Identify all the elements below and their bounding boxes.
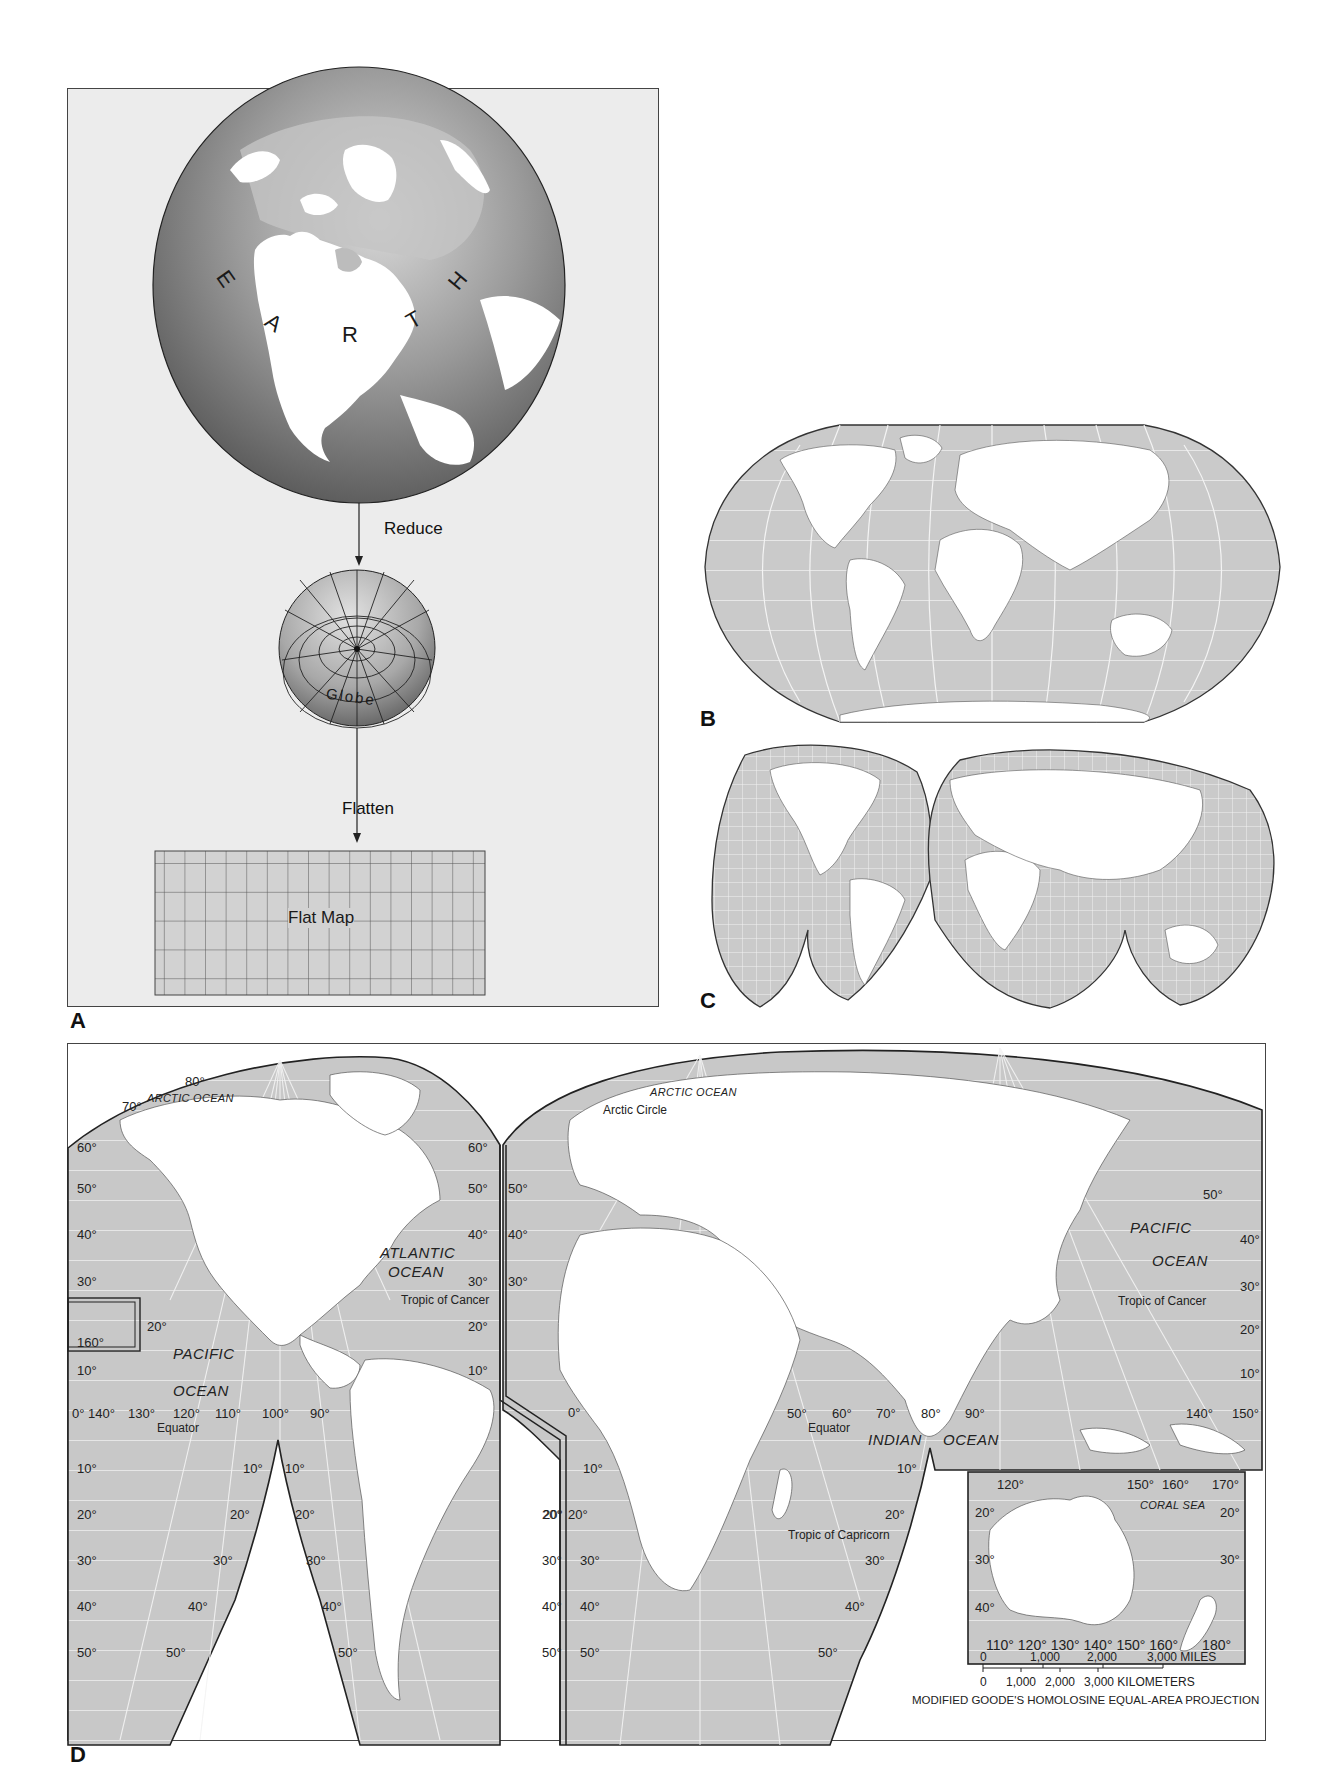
lat-label: 20° (230, 1508, 250, 1521)
lat-label: 50° (338, 1646, 358, 1659)
lon-label: 0° (568, 1406, 580, 1419)
lat-label: 50° (77, 1646, 97, 1659)
scale-km-tick: 3,000 KILOMETERS (1084, 1676, 1195, 1688)
lon-label: 90° (310, 1407, 330, 1420)
lat-label: 30° (542, 1554, 562, 1567)
lat-label: 20° (885, 1508, 905, 1521)
lon-label: 70° (876, 1407, 896, 1420)
lat-label: 70° (122, 1100, 142, 1113)
lat-label: 20° (975, 1506, 995, 1519)
lat-label: 30° (77, 1275, 97, 1288)
indian-ocean-label: INDIAN (868, 1432, 922, 1447)
tropic-of-capricorn-label: Tropic of Capricorn (788, 1529, 890, 1541)
lat-label: 30° (213, 1554, 233, 1567)
lat-label: 30° (468, 1275, 488, 1288)
panel-letter-d: D (70, 1742, 86, 1768)
projection-caption: MODIFIED GOODE'S HOMOLOSINE EQUAL-AREA P… (912, 1695, 1259, 1707)
lat-label: 50° (542, 1646, 562, 1659)
lat-label: 50° (1203, 1188, 1223, 1201)
lon-label: 120° (997, 1478, 1024, 1491)
scale-miles-tick: 0 (980, 1651, 987, 1663)
lat-label: 40° (845, 1600, 865, 1613)
lat-label: 50° (818, 1646, 838, 1659)
lat-label: 30° (306, 1554, 326, 1567)
scale-miles-tick: 1,000 (1030, 1651, 1060, 1663)
lon-label: 80° (921, 1407, 941, 1420)
scale-km-tick: 2,000 (1045, 1676, 1075, 1688)
tropic-of-cancer-label: Tropic of Cancer (1118, 1295, 1206, 1307)
lat-label: 40° (77, 1600, 97, 1613)
lat-label: 10° (77, 1462, 97, 1475)
lat-label: 10° (468, 1364, 488, 1377)
lat-label: 40° (322, 1600, 342, 1613)
tropic-of-cancer-label: Tropic of Cancer (401, 1294, 489, 1306)
lon-label: 110° (215, 1407, 241, 1420)
lat-label: 50° (508, 1182, 528, 1195)
lat-label: 40° (508, 1228, 528, 1241)
lat-label: 30° (508, 1275, 528, 1288)
lat-label: 10° (1240, 1367, 1260, 1380)
equator-label: Equator (808, 1422, 850, 1434)
lat-label: 50° (77, 1182, 97, 1195)
coral-sea-label: CORAL SEA (1140, 1500, 1205, 1511)
hawaii-inset-label: 160° (77, 1336, 104, 1349)
scale-miles-tick: 3,000 MILES (1147, 1651, 1216, 1663)
lon-label: 120° (173, 1407, 200, 1420)
lat-label: 40° (542, 1600, 562, 1613)
lon-label: 150° (1116, 1637, 1145, 1653)
arctic-circle-label: Arctic Circle (603, 1104, 667, 1116)
lat-label: 30° (1240, 1280, 1260, 1293)
lat-label: 0° (72, 1407, 84, 1420)
lon-label: 150° (1232, 1407, 1259, 1420)
lat-label: 20° (468, 1320, 488, 1333)
lon-label: 170° (1212, 1478, 1239, 1491)
lat-label: 40° (1240, 1233, 1260, 1246)
pacific-ocean-label: PACIFIC (173, 1346, 235, 1361)
lon-label: 140° (1186, 1407, 1213, 1420)
equator-label: Equator (157, 1422, 199, 1434)
lat-label: 50° (468, 1182, 488, 1195)
lat-label: 20° (1220, 1506, 1240, 1519)
lon-label: 150° (1127, 1478, 1154, 1491)
lat-label: 20° (77, 1508, 97, 1521)
lat-label: 20° (295, 1508, 315, 1521)
lat-label: 30° (975, 1553, 995, 1566)
lat-label: 60° (77, 1141, 97, 1154)
scale-km-tick: 1,000 (1006, 1676, 1036, 1688)
lat-label: 50° (166, 1646, 186, 1659)
lat-label: 30° (1220, 1553, 1240, 1566)
lon-label: 90° (965, 1407, 985, 1420)
lat-label: 30° (77, 1554, 97, 1567)
lat-label: 10° (243, 1462, 263, 1475)
arctic-ocean-label: ARCTIC OCEAN (147, 1093, 234, 1104)
lat-label: 30° (865, 1554, 885, 1567)
atlantic-ocean-label: OCEAN (388, 1264, 444, 1279)
lat-label: 40° (975, 1601, 995, 1614)
lat-label: 20° (568, 1508, 588, 1521)
lat-label: 20° (1240, 1323, 1260, 1336)
lon-label: 140° (88, 1407, 115, 1420)
lat-label: 10° (583, 1462, 603, 1475)
lon-label: 160° (1162, 1478, 1189, 1491)
lat-label: 40° (188, 1600, 208, 1613)
pacific-ocean-label: PACIFIC (1130, 1220, 1192, 1235)
scale-km-tick: 0 (980, 1676, 987, 1688)
atlantic-ocean-label: ATLANTIC (380, 1245, 455, 1260)
lat-label: 20° (543, 1508, 563, 1521)
lat-label: 50° (580, 1646, 600, 1659)
lat-label: 10° (897, 1462, 917, 1475)
lat-label: 30° (580, 1554, 600, 1567)
lon-label: 110° (986, 1637, 1014, 1653)
lat-label: 40° (580, 1600, 600, 1613)
lat-label: 10° (285, 1462, 305, 1475)
lon-label: 50° (787, 1407, 807, 1420)
lat-label: 40° (77, 1228, 97, 1241)
lon-label: 130° (128, 1407, 155, 1420)
lat-label: 40° (468, 1228, 488, 1241)
indian-ocean-label: OCEAN (943, 1432, 999, 1447)
lat-label: 20° (147, 1320, 167, 1333)
pacific-ocean-label: OCEAN (173, 1383, 229, 1398)
lat-label: 60° (468, 1141, 488, 1154)
lat-label: 80° (185, 1075, 205, 1088)
scale-miles-tick: 2,000 (1087, 1651, 1117, 1663)
